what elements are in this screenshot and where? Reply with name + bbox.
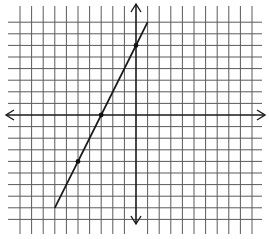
data-point [134,43,139,48]
axes [6,4,265,224]
data-point [99,113,104,118]
data-point [76,159,81,164]
coordinate-graph [0,0,269,239]
horizontal-gridlines [8,22,262,219]
